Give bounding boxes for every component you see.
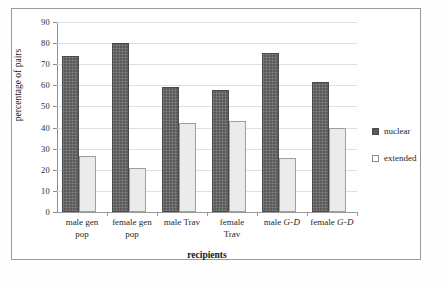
bar-nuclear[interactable] [62,56,79,212]
y-tick-label-20: 20 [41,166,50,175]
x-tick-label: female genpop [107,216,157,240]
x-tick-label-part: female [220,217,244,227]
bar-group [57,22,107,212]
legend-label: extended [384,153,416,163]
x-tick-label: male Trav [157,216,207,228]
y-tick-label-80: 80 [41,39,50,48]
bar-nuclear[interactable] [162,87,179,212]
x-tick-mark [357,212,358,216]
y-axis-title: percentage of pairs [13,15,23,155]
bar-nuclear[interactable] [262,53,279,212]
bar-group [107,22,157,212]
x-axis-tick-labels: male genpopfemale genpopmale TravfemaleT… [57,216,357,250]
chart-legend: nuclearextended [372,126,438,180]
x-tick-label-part: female [310,217,337,227]
x-tick-label: femaleTrav [207,216,257,240]
x-tick-label-part: Trav [224,229,241,239]
bar-group [307,22,357,212]
legend-item-extended[interactable]: extended [372,153,438,163]
bar-nuclear[interactable] [112,43,129,212]
y-tick-label-60: 60 [41,81,50,90]
bar-nuclear[interactable] [212,90,229,212]
x-tick-label-part: female gen [112,217,152,227]
bar-nuclear[interactable] [312,82,329,212]
y-tick-label-40: 40 [41,123,50,132]
bar-extended[interactable] [229,121,246,212]
bar-extended[interactable] [279,158,296,212]
x-tick-label-part: male [264,217,284,227]
legend-swatch-filled-dark-square [372,128,379,135]
y-tick-label-70: 70 [41,60,50,69]
x-tick-label-part: pop [125,229,139,239]
bar-extended[interactable] [179,123,196,212]
legend-swatch-outlined-white-square [372,155,379,162]
x-tick-label: female G-D [307,216,357,228]
plot-area: 0102030405060708090 [57,22,357,212]
bar-group [157,22,207,212]
bar-extended[interactable] [329,128,346,212]
x-tick-label-part: G-D [283,217,300,227]
x-axis-title: recipients [57,250,357,260]
x-tick-label-part: male Trav [164,217,200,227]
bar-chart-figure: percentage of pairs 0102030405060708090 … [0,0,444,289]
y-tick-label-30: 30 [41,144,50,153]
x-tick-label-part: pop [75,229,89,239]
y-tick-label-90: 90 [41,18,50,27]
x-tick-label-part: G-D [337,217,354,227]
y-tick-label-50: 50 [41,102,50,111]
x-tick-label: male G-D [257,216,307,228]
bar-extended[interactable] [79,156,96,212]
x-tick-label-part: male gen [66,217,99,227]
y-tick-mark-0 [53,212,57,213]
legend-label: nuclear [384,126,410,136]
bar-group [207,22,257,212]
x-tick-label: male genpop [57,216,107,240]
y-tick-label-10: 10 [41,187,50,196]
legend-item-nuclear[interactable]: nuclear [372,126,438,136]
y-tick-label-0: 0 [46,208,50,217]
bar-group [257,22,307,212]
bar-extended[interactable] [129,168,146,212]
